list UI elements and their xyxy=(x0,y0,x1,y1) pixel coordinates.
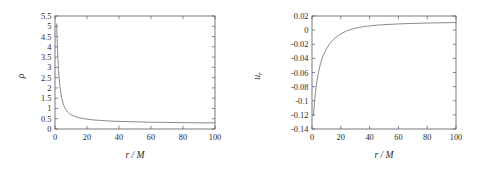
y-tick-label: 0.5 xyxy=(41,115,51,124)
x-tick-label: 0 xyxy=(310,133,314,142)
x-tick-label: 60 xyxy=(394,133,402,142)
y-tick-label: 4.5 xyxy=(41,33,51,42)
y-tick-label: 2 xyxy=(47,84,51,93)
x-tick-label: 80 xyxy=(179,133,187,142)
radial-velocity-y-axis-subscript: r xyxy=(256,72,263,75)
y-tick-label: -0.12 xyxy=(291,111,308,120)
y-tick-label: 0.02 xyxy=(294,12,309,21)
density-y-axis-title: ρ xyxy=(15,73,26,79)
y-tick-label: 3.5 xyxy=(41,53,51,62)
density-x-tick-labels: 020406080100 xyxy=(53,133,221,142)
density-x-ticks xyxy=(55,16,215,129)
radial-velocity-y-axis-title: ur xyxy=(251,72,263,80)
y-tick-label: -0.02 xyxy=(291,40,308,49)
y-tick-label: -0.04 xyxy=(291,54,309,63)
density-plot-frame xyxy=(55,16,215,129)
y-tick-label: 0 xyxy=(304,26,308,35)
y-tick-label: 4 xyxy=(47,43,52,52)
radial-velocity-x-axis-title: r / M xyxy=(374,149,394,160)
radial-velocity-plot-frame xyxy=(312,16,456,129)
chart-panel-density: 00.511.522.533.544.555.5 020406080100 r … xyxy=(0,0,244,170)
radial-velocity-y-ticks xyxy=(312,16,456,129)
x-tick-label: 20 xyxy=(83,133,91,142)
x-tick-label: 80 xyxy=(423,133,431,142)
radial-velocity-x-tick-labels: 020406080100 xyxy=(310,133,462,142)
y-tick-label: -0.06 xyxy=(291,69,308,78)
y-tick-label: 1.5 xyxy=(41,94,51,103)
y-tick-label: 5 xyxy=(47,22,51,31)
y-tick-label: -0.08 xyxy=(291,83,308,92)
figure-container: 00.511.522.533.544.555.5 020406080100 r … xyxy=(0,0,488,170)
radial-velocity-plot-svg: -0.14-0.12-0.1-0.08-0.06-0.04-0.0200.02 … xyxy=(244,0,488,170)
y-tick-label: 2.5 xyxy=(41,74,51,83)
radial-velocity-x-ticks xyxy=(312,16,456,129)
density-plot-svg: 00.511.522.533.544.555.5 020406080100 r … xyxy=(0,0,244,170)
radial-velocity-y-tick-labels: -0.14-0.12-0.1-0.08-0.06-0.04-0.0200.02 xyxy=(291,12,309,134)
x-tick-label: 40 xyxy=(365,133,373,142)
y-tick-label: -0.1 xyxy=(295,97,308,106)
y-tick-label: -0.14 xyxy=(291,125,309,134)
density-curve xyxy=(57,24,215,123)
radial-velocity-curve xyxy=(313,23,456,116)
density-x-axis-title: r / M xyxy=(125,149,145,160)
density-y-tick-labels: 00.511.522.533.544.555.5 xyxy=(41,12,52,134)
x-tick-label: 20 xyxy=(337,133,345,142)
chart-panel-radial-velocity: -0.14-0.12-0.1-0.08-0.06-0.04-0.0200.02 … xyxy=(244,0,488,170)
y-tick-label: 1 xyxy=(47,104,51,113)
y-tick-label: 0 xyxy=(47,125,51,134)
x-tick-label: 0 xyxy=(53,133,57,142)
x-tick-label: 100 xyxy=(450,133,463,142)
y-tick-label: 3 xyxy=(47,63,51,72)
x-tick-label: 100 xyxy=(209,133,222,142)
y-tick-label: 5.5 xyxy=(41,12,51,21)
density-y-ticks xyxy=(55,16,215,129)
x-tick-label: 60 xyxy=(147,133,155,142)
x-tick-label: 40 xyxy=(115,133,123,142)
